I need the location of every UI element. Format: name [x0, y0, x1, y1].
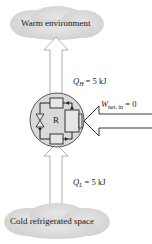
cold-space-label: Cold refrigerated space: [10, 217, 94, 226]
evaporator-icon: [50, 134, 63, 144]
work-in-value: = 0: [125, 99, 136, 109]
heat-out-label: QH = 5 kJ: [73, 77, 106, 87]
diagram-canvas: [0, 0, 152, 244]
condenser-icon: [50, 98, 63, 108]
work-in-arrow: [84, 106, 152, 136]
heat-in-value: = 5 kJ: [85, 177, 106, 187]
heat-out-subscript: H: [79, 81, 83, 87]
heat-in-arrow: [44, 144, 68, 210]
heat-out-arrow: [44, 37, 68, 97]
compressor-icon: [65, 110, 79, 132]
heat-in-subscript: L: [79, 182, 82, 188]
compressor-shaft-icon: [79, 114, 82, 128]
heat-in-label: QL = 5 kJ: [73, 178, 105, 188]
work-in-subscript: net, in: [108, 104, 123, 110]
warm-environment-label: Warm environment: [21, 19, 91, 28]
work-in-label: Wnet, in = 0: [101, 100, 136, 110]
heat-out-value: = 5 kJ: [86, 76, 107, 86]
device-label: R: [53, 116, 59, 125]
